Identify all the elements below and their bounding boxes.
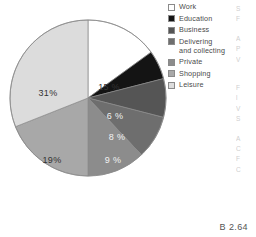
chart-legend: WorkEducationBusinessDelivering and coll…	[168, 2, 234, 92]
pie-slice-label: 15 %	[98, 82, 120, 92]
pie-slice-label: 19%	[43, 155, 62, 165]
legend-item: Private	[168, 57, 234, 66]
bleed-text-gap	[236, 74, 256, 83]
legend-item: Delivering and collecting	[168, 37, 234, 55]
legend-item-label: Leisure	[179, 80, 204, 89]
legend-swatch-delivering-and-collecting	[168, 38, 175, 45]
legend-item-label: Work	[179, 2, 196, 11]
pie-chart: 15 %6 %8 %9 %12 %19%31%	[8, 18, 168, 178]
pie-chart-svg: 15 %6 %8 %9 %12 %19%31%	[8, 18, 168, 178]
legend-swatch-work	[168, 4, 175, 11]
legend-swatch-education	[168, 15, 175, 22]
legend-item-label: Business	[179, 25, 209, 34]
bleed-text-line: F	[236, 83, 256, 93]
legend-item-label: Education	[179, 14, 212, 23]
pie-slice-label: 9 %	[105, 155, 121, 165]
bleed-text-gap	[236, 25, 256, 34]
bleed-text-line: V	[236, 104, 256, 114]
bleed-text-line: A	[236, 34, 256, 44]
bleed-text-line: F	[236, 14, 256, 24]
bleed-text-line: S	[236, 4, 256, 14]
bleed-text-gap	[236, 65, 256, 74]
bleed-text-line: V	[236, 55, 256, 65]
bleed-text-line: S	[236, 114, 256, 124]
legend-swatch-private	[168, 59, 175, 66]
pie-slice-label: 31%	[39, 88, 58, 98]
legend-item: Shopping	[168, 69, 234, 78]
bleed-text-line: C	[236, 165, 256, 175]
pie-slices	[10, 20, 166, 176]
bleed-text-line: l	[236, 93, 256, 103]
pie-slice-label: 6 %	[107, 111, 123, 121]
figure-caption: B 2.64	[220, 222, 248, 232]
legend-item-label: Delivering and collecting	[179, 37, 225, 55]
legend-item: Leisure	[168, 80, 234, 89]
pie-slice-label: 12 %	[73, 177, 95, 178]
background-bleed-text: SFAPVFlVSACFC	[236, 4, 256, 184]
legend-item-label: Shopping	[179, 69, 211, 78]
legend-swatch-business	[168, 27, 175, 34]
pie-slice-label: 8 %	[109, 132, 125, 142]
bleed-text-gap	[236, 125, 256, 134]
bleed-text-line: C	[236, 144, 256, 154]
legend-swatch-shopping	[168, 70, 175, 77]
legend-item-label: Private	[179, 57, 202, 66]
bleed-text-line: F	[236, 154, 256, 164]
pie-chart-figure: 15 %6 %8 %9 %12 %19%31% WorkEducationBus…	[0, 0, 256, 237]
bleed-text-line: P	[236, 44, 256, 54]
bleed-text-line: A	[236, 134, 256, 144]
legend-item: Business	[168, 25, 234, 34]
legend-item: Education	[168, 14, 234, 23]
legend-swatch-leisure	[168, 82, 175, 89]
legend-item: Work	[168, 2, 234, 11]
